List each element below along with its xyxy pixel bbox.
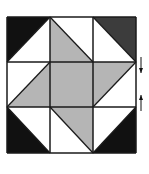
quilt-cells — [7, 17, 136, 153]
cell-top-left — [7, 17, 50, 62]
cell-top-middle — [50, 17, 93, 62]
cell-middle-right — [93, 62, 136, 107]
arrow-up-icon — [139, 95, 143, 111]
arrows — [139, 57, 143, 111]
square-patch — [50, 62, 93, 107]
cell-top-right — [93, 17, 136, 62]
cell-bottom-middle — [50, 107, 93, 153]
arrow-down-icon — [139, 57, 143, 73]
cell-bottom-left — [7, 107, 50, 153]
cell-bottom-right — [93, 107, 136, 153]
cell-center — [50, 62, 93, 107]
cell-middle-left — [7, 62, 50, 107]
quilt-block-diagram — [0, 0, 149, 174]
